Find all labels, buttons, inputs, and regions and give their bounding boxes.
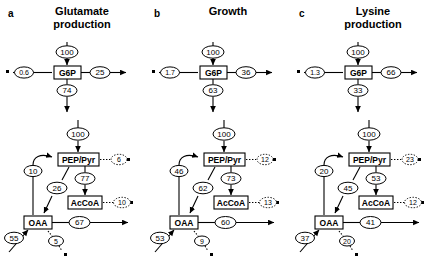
c-flux-pep-accoa: 53 <box>372 174 381 183</box>
c-term-oaa-down <box>355 253 358 256</box>
a-edge-pep-oaa-1 <box>62 167 69 180</box>
a-flux-oaa-down: 5 <box>54 238 58 245</box>
a-edge-pep-oaa-2 <box>44 196 52 213</box>
b-flux-g6p-right: 36 <box>242 68 251 77</box>
b-edge-pep-oaa-2 <box>190 196 198 213</box>
b-flux-uptake: 100 <box>206 48 220 57</box>
a-node-g6p: G6P <box>59 68 76 78</box>
a-node-pep: PEP/Pyr <box>62 155 96 165</box>
b-flux-pep-accoa: 73 <box>227 174 236 183</box>
a-flux-oaa-right: 67 <box>75 218 84 227</box>
b-flux-pep-dashed: 12 <box>261 156 269 163</box>
b-term-oaa-down <box>210 253 213 256</box>
b-edge-oaa-pep-2 <box>179 155 198 165</box>
a-node-oaa: OAA <box>29 218 48 228</box>
c-term-g6p-left <box>297 70 300 73</box>
a-flux-g6p-down: 74 <box>63 86 72 95</box>
c-flux-pep-in: 100 <box>362 130 376 139</box>
b-flux-pep-in: 100 <box>217 130 231 139</box>
c-edge-oaa-down-dashed-1 <box>339 231 343 236</box>
b-edge-pep-oaa-1 <box>208 167 215 180</box>
b-flux-g6p-left: 1.7 <box>165 69 175 76</box>
c-flux-oaa-down: 20 <box>343 238 351 245</box>
c-node-g6p: G6P <box>350 68 367 78</box>
c-node-oaa: OAA <box>320 218 339 228</box>
a-edge-oaa-pep-2 <box>33 155 52 165</box>
b-edge-oaa-down-dashed-2 <box>205 246 208 251</box>
panel-c-diagram: 100 1.3 66 33 100 23 53 45 20 12 <box>291 0 438 257</box>
c-flux-accoa-dashed: 12 <box>409 199 417 206</box>
b-flux-oaa-down: 9 <box>200 238 204 245</box>
c-edge-oaa-pep-2 <box>324 155 343 165</box>
a-flux-pep-in: 100 <box>71 130 85 139</box>
a-edge-oaa-down-dashed-1 <box>48 231 52 236</box>
a-flux-uptake: 100 <box>60 48 74 57</box>
c-flux-oaa-pep: 20 <box>320 167 329 176</box>
b-node-g6p: G6P <box>205 68 222 78</box>
a-flux-g6p-right: 25 <box>96 68 105 77</box>
b-flux-accoa-dashed: 13 <box>264 199 272 206</box>
a-flux-pep-oaa: 26 <box>53 184 62 193</box>
panel-b-diagram: 100 1.7 36 63 100 12 73 62 46 13 <box>146 0 293 257</box>
a-flux-accoa-dashed: 10 <box>118 199 126 206</box>
c-flux-g6p-left: 1.3 <box>310 69 320 76</box>
panel-a: a Glutamate production <box>0 0 147 257</box>
a-flux-pep-accoa: 77 <box>81 174 90 183</box>
c-flux-pep-oaa: 45 <box>344 184 353 193</box>
b-flux-oaa-right: 60 <box>221 218 230 227</box>
a-edge-oaa-down-dashed-2 <box>59 246 62 251</box>
c-node-pep: PEP/Pyr <box>353 155 387 165</box>
panel-a-diagram: 100 0.6 25 74 100 6 77 26 10 10 <box>0 0 147 257</box>
a-term-g6p-left <box>6 70 9 73</box>
c-edge-oaa-down-dashed-2 <box>350 246 353 251</box>
c-edge-pep-oaa-1 <box>353 167 360 180</box>
a-term-oaa-down <box>64 253 67 256</box>
b-node-accoa: AcCoA <box>217 198 245 208</box>
c-flux-g6p-right: 66 <box>387 68 396 77</box>
b-flux-oaa-inflow: 53 <box>156 234 165 243</box>
c-flux-oaa-right: 41 <box>366 218 375 227</box>
c-edge-pep-oaa-2 <box>335 196 343 213</box>
a-flux-g6p-left: 0.6 <box>19 69 29 76</box>
b-flux-oaa-pep: 46 <box>175 167 184 176</box>
a-flux-oaa-pep: 10 <box>29 167 38 176</box>
a-flux-pep-dashed: 6 <box>117 156 121 163</box>
b-flux-g6p-down: 63 <box>209 86 218 95</box>
b-node-pep: PEP/Pyr <box>208 155 242 165</box>
c-flux-g6p-down: 33 <box>354 86 363 95</box>
c-flux-oaa-inflow: 37 <box>301 234 310 243</box>
metabolic-flux-figure: a Glutamate production <box>0 0 441 257</box>
b-flux-pep-oaa: 62 <box>199 184 208 193</box>
a-flux-oaa-inflow: 55 <box>10 234 19 243</box>
c-flux-uptake: 100 <box>351 48 365 57</box>
b-term-g6p-left <box>152 70 155 73</box>
panel-b: b Growth <box>146 0 293 257</box>
c-flux-pep-dashed: 23 <box>406 156 414 163</box>
panel-c: c Lysine production <box>291 0 438 257</box>
b-node-oaa: OAA <box>175 218 194 228</box>
c-node-accoa: AcCoA <box>362 198 390 208</box>
a-node-accoa: AcCoA <box>71 198 99 208</box>
b-edge-oaa-down-dashed-1 <box>194 231 198 236</box>
